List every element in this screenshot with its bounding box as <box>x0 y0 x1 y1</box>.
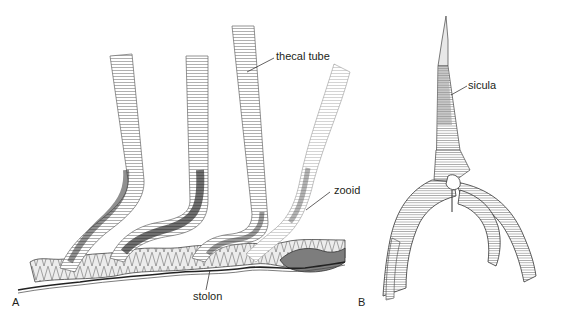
panel-letter-b: B <box>358 297 365 308</box>
sicula <box>434 16 470 180</box>
label-sicula: sicula <box>468 80 496 91</box>
label-thecal-tube: thecal tube <box>276 51 330 62</box>
panel-b-drawing <box>383 16 536 300</box>
panel-a-drawing <box>18 26 350 293</box>
stolon-leader <box>206 270 210 290</box>
illustration-canvas <box>0 0 570 319</box>
sicula-leader <box>451 86 467 95</box>
panel-letter-a: A <box>12 297 19 308</box>
label-zooid: zooid <box>334 185 360 196</box>
label-stolon: stolon <box>193 291 222 302</box>
